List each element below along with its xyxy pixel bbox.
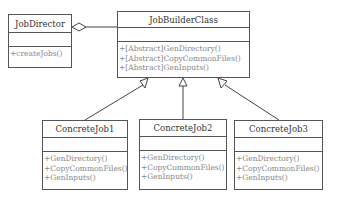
operation: +[Abstract]GenDirectory(): [119, 44, 249, 54]
class-job-builder[interactable]: JobBuilderClass +[Abstract]GenDirectory(…: [117, 11, 250, 78]
class-name: JobDirector: [9, 15, 71, 33]
operations-section: +GenDirectory() +CopyCommonFiles() +GenI…: [140, 151, 226, 182]
operation: +GenDirectory(): [236, 154, 322, 164]
operation: +createJobs(): [10, 49, 71, 59]
operation: +GenInputs(): [141, 172, 226, 182]
operation: +CopyCommonFiles(): [44, 164, 127, 174]
class-job-director[interactable]: JobDirector +createJobs(): [8, 14, 72, 68]
inheritance-arrow-icon: [218, 78, 227, 88]
operation: +[Abstract]GenInputs(): [119, 63, 249, 73]
operations-section: +GenDirectory() +CopyCommonFiles() +GenI…: [43, 152, 127, 183]
class-concrete-job3[interactable]: ConcreteJob3 +GenDirectory() +CopyCommon…: [234, 120, 323, 190]
attributes-section: [235, 138, 322, 152]
attributes-section: [140, 137, 226, 151]
operation: +GenDirectory(): [44, 154, 127, 164]
attributes-section: [9, 33, 71, 47]
class-name: ConcreteJob3: [235, 121, 322, 138]
aggregation-diamond-icon: [72, 23, 86, 31]
class-name: ConcreteJob1: [43, 121, 127, 138]
class-concrete-job1[interactable]: ConcreteJob1 +GenDirectory() +CopyCommon…: [42, 120, 128, 190]
operation: +CopyCommonFiles(): [236, 164, 322, 174]
operation: +GenInputs(): [44, 173, 127, 183]
operations-section: +createJobs(): [9, 47, 71, 59]
operation: +GenInputs(): [236, 173, 322, 183]
operations-section: +GenDirectory() +CopyCommonFiles() +GenI…: [235, 152, 322, 183]
attributes-section: [118, 28, 249, 42]
class-concrete-job2[interactable]: ConcreteJob2 +GenDirectory() +CopyCommon…: [139, 119, 227, 190]
operation: +CopyCommonFiles(): [141, 163, 226, 173]
operations-section: +[Abstract]GenDirectory() +[Abstract]Cop…: [118, 42, 249, 73]
inheritance-arrow-icon: [179, 78, 187, 86]
operation: +[Abstract]CopyCommonFiles(): [119, 54, 249, 64]
class-name: JobBuilderClass: [118, 12, 249, 28]
class-name: ConcreteJob2: [140, 120, 226, 137]
operation: +GenDirectory(): [141, 153, 226, 163]
attributes-section: [43, 138, 127, 152]
